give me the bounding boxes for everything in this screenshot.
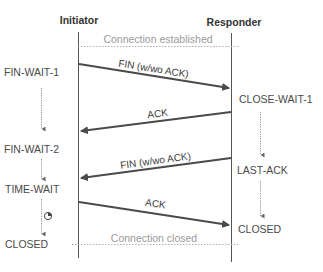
timer-icon xyxy=(44,212,51,219)
state-fin-wait-2: FIN-WAIT-2 xyxy=(4,143,59,155)
connection-established-note: Connection established xyxy=(103,33,212,45)
ack-label-2: ACK xyxy=(145,197,167,211)
state-closed-initiator: CLOSED xyxy=(5,238,49,250)
initiator-header: Initiator xyxy=(60,14,99,26)
state-last-ack: LAST-ACK xyxy=(237,164,288,176)
tcp-teardown-diagram: Initiator Responder Connection establish… xyxy=(0,0,323,272)
ack-label-1: ACK xyxy=(147,107,169,121)
state-time-wait: TIME-WAIT xyxy=(5,183,60,195)
state-close-wait-1: CLOSE-WAIT-1 xyxy=(239,93,313,105)
state-closed-responder: CLOSED xyxy=(238,223,282,235)
connection-closed-note: Connection closed xyxy=(111,232,198,244)
responder-header: Responder xyxy=(207,16,262,28)
state-fin-wait-1: FIN-WAIT-1 xyxy=(4,66,59,78)
